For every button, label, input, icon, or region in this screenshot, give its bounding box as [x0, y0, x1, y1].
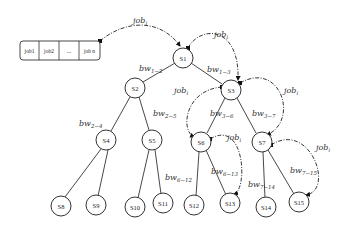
node-s6: S6 [191, 132, 211, 152]
label-job-queue-s1: jobi [131, 16, 147, 26]
edge-s7-s14 [263, 152, 265, 198]
tree-diagram: job1 job2 ... job n S1 S2 S3 S4 S5 S6 S7… [0, 0, 346, 231]
node-s12: S12 [184, 195, 204, 215]
node-s13: S13 [220, 193, 240, 213]
label-bw-3-7: bw3−7 [252, 109, 276, 119]
label-bw-2-5: bw2−5 [153, 109, 177, 119]
label-job-s7-s15: jobi [314, 143, 330, 153]
node-s3: S3 [221, 80, 241, 100]
node-s15: S15 [289, 192, 309, 212]
node-s11: S11 [153, 193, 173, 213]
node-s2: S2 [125, 78, 145, 98]
edge-s4-s8 [65, 149, 101, 197]
svg-text:S1: S1 [180, 55, 187, 62]
node-s5: S5 [142, 130, 162, 150]
edge-s5-s10 [138, 150, 149, 198]
flow-queue-s1 [100, 25, 180, 46]
tree-nodes: S1 S2 S3 S4 S5 S6 S7 S8 S9 S10 S11 S12 S… [51, 48, 309, 217]
label-bw-6-12: bw6−12 [165, 173, 193, 183]
edge-s4-s9 [98, 150, 108, 196]
svg-text:S9: S9 [93, 202, 100, 209]
svg-text:S7: S7 [259, 139, 267, 146]
edge-labels: bw1−2 bw1−3 bw2−4 bw2−5 bw3−6 bw3−7 bw6−… [79, 64, 318, 190]
label-bw-3-6: bw3−6 [210, 109, 234, 119]
svg-text:S10: S10 [130, 204, 140, 211]
label-bw-6-13: bw6−13 [211, 167, 239, 177]
flow-s3-s7 [240, 78, 284, 135]
label-job-s3-s7: jobi [282, 86, 298, 96]
node-s14: S14 [256, 197, 276, 217]
node-s10: S10 [125, 197, 145, 217]
flow-s6-s13 [210, 135, 242, 194]
svg-text:S6: S6 [198, 139, 206, 146]
svg-text:S4: S4 [103, 137, 111, 144]
svg-text:S14: S14 [261, 204, 272, 211]
svg-text:S15: S15 [294, 199, 304, 206]
label-job-s1-s3: jobi [212, 30, 228, 40]
queue-cell-n: job n [83, 48, 95, 54]
edge-s2-s4 [111, 97, 130, 131]
queue-cell-2: job2 [43, 48, 54, 54]
edge-s5-s11 [155, 150, 161, 194]
svg-text:S2: S2 [132, 85, 139, 92]
node-s4: S4 [96, 130, 116, 150]
queue-cell-1: job1 [24, 48, 35, 54]
label-job-s3-s6: jobi [172, 86, 188, 96]
node-s8: S8 [51, 196, 71, 216]
label-bw-1-2: bw1−2 [139, 64, 163, 74]
label-bw-7-15: bw7−15 [290, 166, 318, 176]
svg-text:S11: S11 [158, 200, 168, 207]
queue-cell-ellipsis: ... [67, 48, 72, 54]
svg-text:S3: S3 [228, 87, 235, 94]
svg-text:S13: S13 [225, 200, 235, 207]
node-s9: S9 [86, 195, 106, 215]
svg-text:S5: S5 [149, 137, 156, 144]
svg-text:S12: S12 [189, 202, 199, 209]
edge-s6-s12 [196, 152, 199, 196]
edge-s2-s5 [139, 97, 149, 130]
label-bw-7-14: bw7−14 [248, 180, 276, 190]
label-bw-1-3: bw1−3 [207, 65, 231, 75]
label-bw-2-4: bw2−4 [79, 119, 103, 129]
node-s1: S1 [173, 48, 193, 68]
svg-text:S8: S8 [58, 203, 65, 210]
node-s7: S7 [252, 132, 272, 152]
label-job-s6-s13: jobi [225, 133, 241, 143]
job-queue: job1 job2 ... job n [20, 41, 100, 60]
